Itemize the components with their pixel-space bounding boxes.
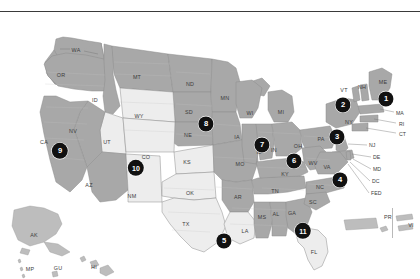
leader-label-nj: NJ [369, 142, 375, 148]
leader-label-ri: RI [399, 121, 404, 127]
leader-label-ct: CT [399, 131, 406, 137]
leader-label-md: MD [373, 166, 381, 172]
leader-label-de: DE [373, 154, 380, 160]
map-canvas: .sh{fill:#a8a8a8;stroke:#8c8c8c;stroke-w… [0, 12, 420, 279]
leader-label-ma: MA [396, 110, 404, 116]
us-regions-map-figure: .sh{fill:#a8a8a8;stroke:#8c8c8c;stroke-w… [0, 0, 420, 279]
territory-inset-divider [392, 208, 393, 238]
leader-label-dc: DC [372, 178, 380, 184]
leader-label-fed: FED [371, 190, 381, 196]
